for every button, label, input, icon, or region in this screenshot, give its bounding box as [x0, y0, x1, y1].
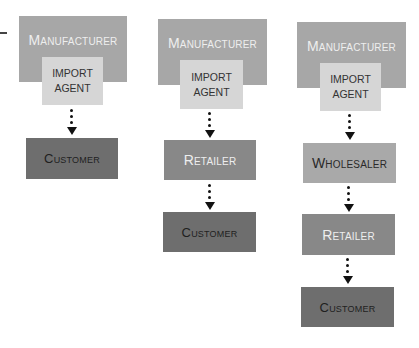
retailer-label: Retailer [184, 152, 237, 168]
dotted-arrow-icon [345, 113, 355, 141]
import-agent-label-line2: AGENT [54, 81, 90, 96]
customer-label: Customer [182, 225, 238, 240]
import-agent-box: IMPORT AGENT [42, 57, 103, 105]
dotted-arrow-icon [205, 111, 215, 139]
import-agent-label-line1: IMPORT [52, 66, 93, 81]
retailer-box: Retailer [164, 140, 256, 180]
manufacturer-label: Manufacturer [168, 35, 257, 51]
import-agent-box: IMPORT AGENT [320, 63, 381, 111]
retailer-box: Retailer [302, 214, 395, 255]
retailer-label: Retailer [322, 227, 375, 243]
dotted-arrow-icon [343, 257, 353, 285]
customer-label: Customer [44, 151, 100, 166]
wholesaler-box: Wholesaler [303, 143, 396, 183]
import-agent-label-line1: IMPORT [330, 72, 371, 87]
dotted-arrow-icon [344, 185, 354, 213]
customer-box: Customer [26, 138, 118, 179]
wholesaler-label: Wholesaler [312, 155, 387, 171]
import-agent-label-line2: AGENT [332, 87, 368, 102]
manufacturer-label: Manufacturer [307, 38, 396, 54]
dotted-arrow-icon [67, 108, 77, 136]
customer-box: Customer [301, 287, 394, 327]
customer-label: Customer [320, 300, 376, 315]
manufacturer-label: Manufacturer [28, 32, 117, 48]
customer-box: Customer [163, 212, 256, 252]
import-agent-label-line2: AGENT [193, 85, 229, 100]
dotted-arrow-icon [205, 183, 215, 211]
import-agent-box: IMPORT AGENT [180, 60, 243, 109]
margin-dash [0, 32, 7, 34]
import-agent-label-line1: IMPORT [191, 70, 232, 85]
